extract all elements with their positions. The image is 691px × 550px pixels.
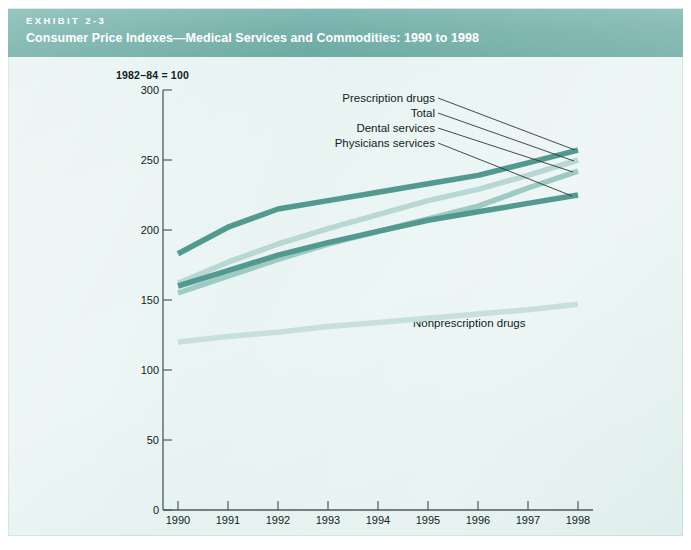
exhibit-number: EXHIBIT 2-3 [26,15,106,26]
chart-axes [163,90,593,510]
series-line-prescription-drugs [178,150,578,254]
chart-plot-area: 1982–84 = 100 300 250 200 150 100 50 0 1… [0,0,691,550]
series-line-nonprescription-drugs [178,304,578,342]
chart-svg [0,0,691,550]
page-title: Consumer Price Indexes—Medical Services … [26,31,479,45]
leader-line-total [438,113,574,161]
leader-line-prescription-drugs [438,98,575,150]
chart-series-layer [178,150,578,342]
exhibit-page: EXHIBIT 2-3 Consumer Price Indexes—Medic… [0,0,691,550]
leader-line-dental-services [438,128,573,172]
